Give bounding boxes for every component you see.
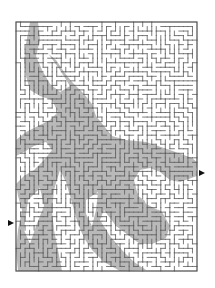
entrance-arrow-icon: [8, 220, 14, 226]
maze-puzzle: [0, 0, 215, 288]
maze-board: [0, 0, 215, 288]
exit-arrow-icon: [199, 170, 205, 176]
